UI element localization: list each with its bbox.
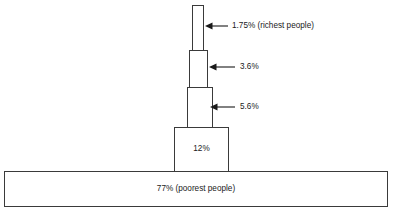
callout-arrow-third — [210, 103, 235, 110]
bar-label-fourth: 12% — [174, 145, 229, 153]
diagram-canvas — [0, 0, 393, 215]
wealth-pyramid-diagram: 1.75% (richest people) 3.6% 5.6% 12% 77%… — [0, 0, 393, 215]
callout-label-third: 5.6% — [240, 103, 259, 111]
callout-arrow-second — [209, 63, 235, 70]
bar-segment-richest — [193, 6, 204, 51]
bar-segment-second — [190, 51, 208, 88]
bar-segment-third — [188, 88, 213, 128]
callout-label-second: 3.6% — [240, 63, 259, 71]
bar-label-poorest: 77% (poorest people) — [4, 185, 388, 193]
callout-arrow-richest — [205, 22, 228, 29]
callout-label-richest: 1.75% (richest people) — [232, 22, 314, 30]
